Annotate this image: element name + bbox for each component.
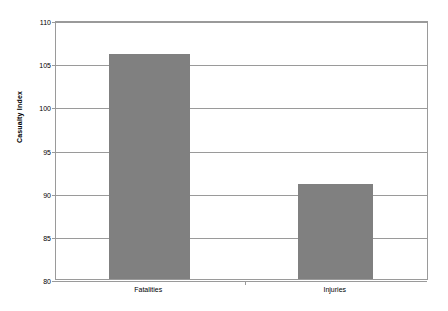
x-axis-mid-tick — [245, 281, 246, 285]
y-axis-tick-label: 85 — [43, 234, 51, 241]
x-axis-tick-label: Fatalities — [134, 286, 162, 293]
y-axis-title: Casualty Index — [16, 67, 30, 167]
y-axis-tick-mark — [52, 281, 56, 282]
bar-chart: Casualty Index 11010510095908580 Fatalit… — [0, 0, 448, 311]
x-axis-labels-group: FatalitiesInjuries — [55, 286, 428, 300]
bar-injuries — [298, 184, 373, 279]
y-axis-tick-label: 105 — [39, 62, 51, 69]
x-axis-tick-label: Injuries — [323, 286, 346, 293]
y-axis-tick-label: 95 — [43, 148, 51, 155]
y-axis-tick-label: 110 — [40, 19, 51, 26]
y-axis-tick-label: 80 — [43, 278, 51, 285]
gridline — [56, 281, 427, 282]
y-axis-tick-label: 90 — [43, 191, 51, 198]
bar-fatalities — [109, 54, 190, 279]
bars-group — [56, 22, 427, 279]
y-axis-tick-label: 100 — [39, 105, 51, 112]
plot-area: 11010510095908580 — [55, 21, 428, 280]
